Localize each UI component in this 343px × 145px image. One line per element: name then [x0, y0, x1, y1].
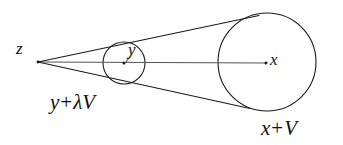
large-sphere-caption-vector: V: [284, 116, 297, 140]
figure-canvas: z y x y+λV x+V: [0, 0, 343, 145]
axis-line: [38, 62, 266, 63]
large-sphere-caption-op: +: [270, 116, 284, 140]
large-sphere-caption: x+V: [261, 118, 297, 139]
apex-point-z: [37, 61, 40, 64]
small-sphere-caption-op: +: [59, 90, 73, 114]
small-sphere-caption: y+λV: [50, 92, 95, 113]
small-sphere-caption-scalar: λ: [73, 90, 82, 114]
center-dot-y: [123, 62, 126, 65]
small-circle-center-label-y: y: [128, 41, 136, 58]
center-dot-x: [265, 62, 268, 65]
large-sphere-caption-var: x: [261, 116, 270, 140]
large-circle-center-label-x: x: [270, 51, 278, 68]
apex-label-z: z: [16, 40, 23, 57]
upper-tangent-line: [38, 16, 259, 63]
small-sphere-caption-vector: V: [82, 90, 95, 114]
small-sphere-caption-var: y: [50, 90, 59, 114]
